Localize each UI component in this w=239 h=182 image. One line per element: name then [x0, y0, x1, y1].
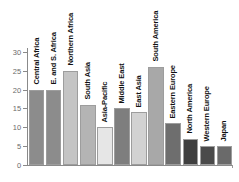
bar: South Asia [80, 105, 95, 165]
y-axis-tick-label: 0 [17, 161, 21, 170]
bar: Western Europe [200, 146, 215, 165]
x-axis-line [27, 165, 233, 166]
bar-category-label: Japan [221, 120, 229, 141]
bar-category-label: Asia-Pacific [101, 82, 109, 123]
y-axis-tick-label: 30 [13, 47, 21, 56]
bar: North America [183, 139, 198, 165]
x-axis-end-tick [232, 165, 233, 168]
plot-area: Central AfricaE. and S. AfricaNorthern A… [28, 48, 233, 165]
bar: Northern Africa [63, 71, 78, 165]
y-axis-tick-label: 15 [13, 104, 21, 113]
bar: South America [148, 67, 163, 165]
y-axis-tick [23, 165, 28, 166]
bar-category-label: Eastern Europe [169, 65, 177, 118]
bar: Asia-Pacific [97, 127, 112, 165]
bar-category-label: South Asia [84, 62, 92, 99]
bar-category-label: Northern Africa [67, 13, 75, 65]
y-axis-tick-label: 10 [13, 123, 21, 132]
bar-category-label: Central Africa [33, 38, 41, 85]
bar-chart: 051015202530 Central AfricaE. and S. Afr… [0, 0, 239, 182]
bar: Central Africa [29, 90, 44, 165]
bar: E. and S. Africa [46, 90, 61, 165]
y-axis-tick-label: 5 [17, 142, 21, 151]
bar-category-label: North America [187, 84, 195, 133]
bar-category-label: E. and S. Africa [50, 32, 58, 84]
bar-category-label: South America [152, 11, 160, 62]
bar-category-label: Western Europe [204, 86, 212, 141]
y-axis-tick-label: 20 [13, 85, 21, 94]
bar: East Asia [131, 112, 146, 165]
bar: Eastern Europe [165, 123, 180, 165]
bar-category-label: Middle East [118, 63, 126, 103]
bar: Middle East [114, 108, 129, 165]
bar-category-label: East Asia [135, 75, 143, 107]
y-axis-tick-label: 25 [13, 66, 21, 75]
bar: Japan [217, 146, 232, 165]
